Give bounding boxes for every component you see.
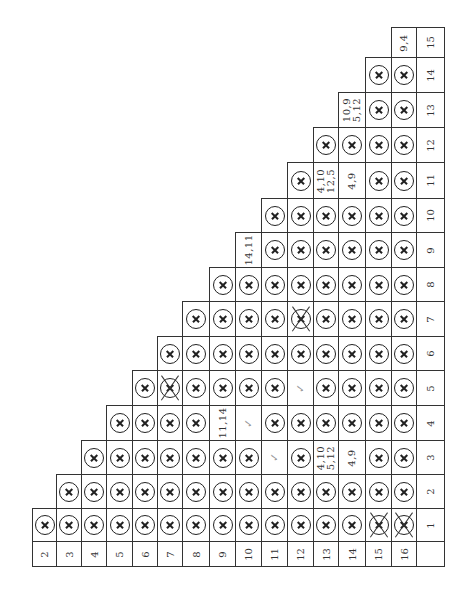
- row-label-text: 15: [373, 548, 384, 561]
- circled-x-icon: [186, 378, 206, 398]
- circled-x-icon: [369, 482, 389, 502]
- cell-14-1: [338, 508, 366, 542]
- circled-x-icon: [213, 482, 233, 502]
- circled-x-icon: [394, 309, 414, 329]
- circled-x-icon: [265, 344, 285, 364]
- cell-15-13: [365, 92, 392, 128]
- implication-chart: 2345678910111213141516123456789101112131…: [0, 0, 469, 594]
- circled-x-icon: [265, 240, 285, 260]
- implied-pairs-text: 4,10 5,12: [316, 445, 336, 469]
- row-label-2: 2: [32, 541, 57, 567]
- circled-x-icon: [239, 515, 259, 535]
- cell-11-9: [261, 232, 288, 268]
- circled-x-icon: [186, 448, 206, 468]
- circled-x-icon: [160, 482, 180, 502]
- circled-x-icon: [135, 515, 155, 535]
- row-label-8: 8: [182, 541, 210, 567]
- circled-x-icon: [394, 240, 414, 260]
- circled-x-icon: [291, 482, 311, 502]
- circled-x-icon: [213, 378, 233, 398]
- row-label-text: 13: [320, 548, 331, 561]
- cell-5-2: [106, 474, 133, 509]
- circled-x-icon: [342, 515, 362, 535]
- row-label-5: 5: [106, 541, 133, 567]
- column-label-3: 3: [416, 440, 445, 475]
- column-label-text: 4: [425, 420, 436, 426]
- circled-x-icon: [394, 275, 414, 295]
- cell-8-7: [182, 301, 210, 337]
- circled-x-icon: [316, 482, 336, 502]
- circled-x-icon: [160, 515, 180, 535]
- circled-x-icon: [342, 240, 362, 260]
- row-label-text: 5: [114, 551, 125, 557]
- circled-x-icon: [394, 100, 414, 120]
- column-label-text: 12: [425, 139, 436, 152]
- circled-x-icon: [369, 378, 389, 398]
- circled-x-icon: [316, 378, 336, 398]
- cell-13-11: 4,10 12,5: [313, 162, 339, 199]
- cell-10-9: 14,11: [235, 232, 262, 268]
- cell-16-14: [391, 57, 417, 93]
- cell-15-9: [365, 232, 392, 268]
- cell-16-15: 9,4: [391, 27, 417, 58]
- crossed-out-x-icon: [392, 512, 416, 538]
- circled-x-icon: [59, 515, 79, 535]
- circled-x-icon: [394, 482, 414, 502]
- crossed-out-x-icon: [289, 306, 313, 332]
- cell-13-9: [313, 232, 339, 268]
- column-label-14: 14: [416, 57, 445, 93]
- cell-6-3: [132, 440, 158, 475]
- circled-x-icon: [369, 65, 389, 85]
- circled-x-icon: [291, 171, 311, 191]
- circled-x-icon: [291, 413, 311, 433]
- cell-4-3: [81, 440, 107, 475]
- circled-x-icon: [394, 448, 414, 468]
- row-label-9: 9: [209, 541, 236, 567]
- row-label-text: 14: [346, 548, 357, 561]
- cell-15-11: [365, 162, 392, 199]
- row-label-text: 8: [191, 551, 202, 557]
- circled-x-icon: [186, 344, 206, 364]
- cell-12-10: [287, 198, 314, 233]
- cell-7-5: [157, 370, 183, 406]
- row-label-14: 14: [338, 541, 366, 567]
- column-label-text: 6: [425, 350, 436, 356]
- cell-15-5: [365, 370, 392, 406]
- cell-13-3: 4,10 5,12: [313, 440, 339, 475]
- circled-x-icon: [110, 413, 130, 433]
- row-label-text: 16: [398, 548, 409, 561]
- implied-pairs-text: 14,11: [244, 234, 254, 265]
- circled-x-icon: [265, 515, 285, 535]
- cell-16-10: [391, 198, 417, 233]
- cell-15-8: [365, 267, 392, 302]
- cell-15-2: [365, 474, 392, 509]
- circled-x-icon: [239, 378, 259, 398]
- cell-10-4: ✓: [235, 405, 262, 441]
- circled-x-icon: [160, 448, 180, 468]
- cell-11-6: [261, 336, 288, 371]
- cell-7-6: [157, 336, 183, 371]
- circled-x-icon: [239, 448, 259, 468]
- circled-x-icon: [265, 206, 285, 226]
- cell-13-5: [313, 370, 339, 406]
- cell-9-3: [209, 440, 236, 475]
- circled-x-icon: [394, 378, 414, 398]
- cell-15-10: [365, 198, 392, 233]
- row-label-text: 10: [243, 548, 254, 561]
- circled-x-icon: [239, 275, 259, 295]
- cell-9-5: [209, 370, 236, 406]
- cell-16-6: [391, 336, 417, 371]
- row-label-6: 6: [132, 541, 158, 567]
- circled-x-icon: [316, 515, 336, 535]
- check-icon: ✓: [268, 453, 281, 462]
- circled-x-icon: [291, 344, 311, 364]
- cell-14-10: [338, 198, 366, 233]
- cell-15-7: [365, 301, 392, 337]
- circled-x-icon: [213, 344, 233, 364]
- row-label-15: 15: [365, 541, 392, 567]
- cell-3-1: [56, 508, 82, 542]
- cell-16-2: [391, 474, 417, 509]
- circled-x-icon: [84, 482, 104, 502]
- cell-12-11: [287, 162, 314, 199]
- cell-3-2: [56, 474, 82, 509]
